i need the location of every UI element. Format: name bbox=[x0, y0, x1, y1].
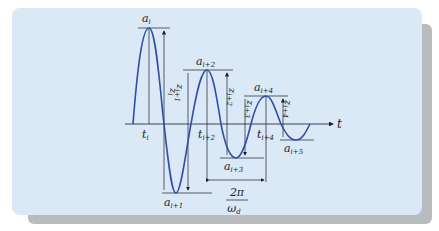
period-denominator: ωd bbox=[227, 202, 241, 216]
axis-label-t: t bbox=[337, 117, 342, 131]
label-a-i-plus-1: ai+1 bbox=[164, 196, 183, 210]
label-a-i-plus-2: ai+2 bbox=[196, 55, 216, 69]
label-t-i-plus-4: ti+4 bbox=[257, 128, 274, 142]
label-a-i-plus-5: ai+5 bbox=[284, 142, 304, 156]
label-t-i: ti bbox=[142, 128, 149, 142]
label-z-i-plus-1: zi+1 bbox=[173, 83, 186, 102]
label-a-i-plus-3: ai+3 bbox=[224, 160, 244, 174]
oscillation-diagram: t ai ai+1 ai+2 ai+3 ai+4 ai+5 ti ti+2 ti… bbox=[0, 0, 439, 231]
label-a-i-plus-4: ai+4 bbox=[254, 81, 273, 95]
label-a-i: ai bbox=[142, 12, 151, 26]
period-numerator: 2π bbox=[229, 186, 245, 199]
